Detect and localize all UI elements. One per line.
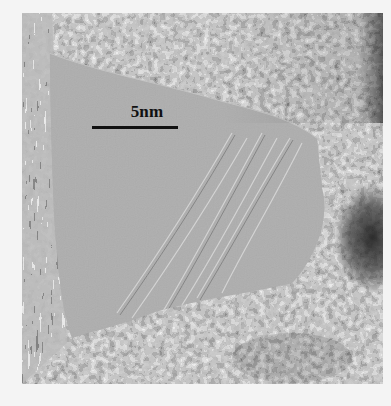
- lattice-texture: [22, 13, 383, 384]
- scale-bar-label: 5nm: [115, 102, 179, 122]
- hrtem-micrograph: 5nm: [22, 13, 383, 384]
- scale-bar: [92, 126, 178, 129]
